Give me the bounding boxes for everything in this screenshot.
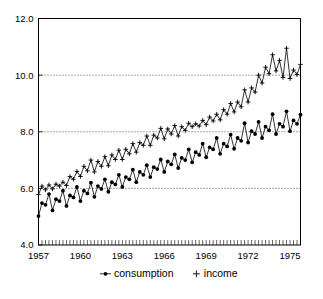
marker-consumption bbox=[197, 153, 201, 157]
x-tick-label-1975: 1975 bbox=[279, 250, 300, 261]
marker-consumption bbox=[68, 194, 72, 198]
marker-consumption bbox=[152, 165, 156, 169]
marker-consumption bbox=[204, 155, 208, 159]
marker-consumption bbox=[288, 129, 292, 133]
marker-consumption bbox=[211, 147, 215, 151]
marker-consumption bbox=[281, 125, 285, 129]
marker-consumption bbox=[239, 139, 243, 143]
marker-consumption bbox=[138, 170, 142, 174]
marker-consumption bbox=[92, 195, 96, 199]
marker-consumption bbox=[229, 133, 233, 137]
marker-consumption bbox=[243, 121, 247, 125]
marker-consumption bbox=[285, 109, 289, 113]
marker-consumption bbox=[155, 167, 159, 171]
x-tick-label-1972: 1972 bbox=[238, 250, 259, 261]
marker-consumption bbox=[82, 189, 86, 193]
legend-marker-dot-consumption bbox=[104, 272, 108, 276]
marker-consumption bbox=[96, 184, 100, 188]
marker-consumption bbox=[51, 209, 55, 213]
marker-consumption bbox=[40, 201, 44, 205]
marker-consumption bbox=[54, 197, 58, 201]
marker-consumption bbox=[110, 180, 114, 184]
marker-consumption bbox=[89, 181, 93, 185]
marker-consumption bbox=[124, 175, 128, 179]
marker-consumption bbox=[260, 136, 264, 140]
marker-consumption bbox=[271, 112, 275, 116]
legend-label-income: income bbox=[204, 267, 238, 279]
marker-consumption bbox=[169, 162, 173, 166]
marker-consumption bbox=[225, 145, 229, 149]
marker-consumption bbox=[173, 153, 177, 157]
marker-consumption bbox=[183, 158, 187, 162]
marker-consumption bbox=[145, 163, 149, 167]
marker-consumption bbox=[106, 190, 110, 194]
marker-consumption bbox=[37, 214, 41, 218]
marker-consumption bbox=[86, 192, 90, 196]
marker-consumption bbox=[232, 147, 236, 151]
marker-consumption bbox=[180, 156, 184, 160]
y-tick-label-12: 12.0 bbox=[15, 13, 34, 24]
chart-legend: consumptionincome bbox=[100, 267, 238, 279]
marker-consumption bbox=[218, 152, 222, 156]
marker-consumption bbox=[274, 132, 278, 136]
marker-consumption bbox=[58, 199, 62, 203]
chart-figure: 4.06.08.010.012.0 1957196019631966196919… bbox=[0, 0, 323, 299]
y-tick-label-8: 8.0 bbox=[20, 126, 33, 137]
marker-consumption bbox=[65, 204, 69, 208]
marker-consumption bbox=[141, 173, 145, 177]
x-tick-label-1960: 1960 bbox=[70, 250, 91, 261]
marker-consumption bbox=[222, 142, 226, 146]
marker-consumption bbox=[292, 119, 296, 123]
marker-consumption bbox=[257, 120, 261, 124]
x-tick-label-1969: 1969 bbox=[196, 250, 217, 261]
marker-consumption bbox=[61, 189, 65, 193]
marker-consumption bbox=[99, 187, 103, 191]
marker-consumption bbox=[79, 199, 83, 203]
marker-consumption bbox=[295, 122, 299, 126]
marker-consumption bbox=[127, 177, 131, 181]
y-tick-label-6: 6.0 bbox=[20, 183, 33, 194]
marker-consumption bbox=[246, 141, 250, 145]
marker-consumption bbox=[72, 196, 76, 200]
marker-consumption bbox=[159, 158, 163, 162]
marker-consumption bbox=[148, 175, 152, 179]
consumption-income-line-chart: 4.06.08.010.012.0 1957196019631966196919… bbox=[0, 0, 323, 299]
marker-consumption bbox=[299, 113, 303, 117]
marker-consumption bbox=[44, 203, 48, 207]
marker-consumption bbox=[103, 177, 107, 181]
marker-consumption bbox=[134, 180, 138, 184]
marker-consumption bbox=[75, 185, 79, 189]
marker-consumption bbox=[113, 183, 117, 187]
marker-consumption bbox=[194, 150, 198, 154]
marker-consumption bbox=[162, 170, 166, 174]
marker-consumption bbox=[264, 125, 268, 129]
marker-consumption bbox=[215, 136, 219, 140]
marker-consumption bbox=[190, 160, 194, 164]
x-tick-label-1963: 1963 bbox=[112, 250, 133, 261]
marker-consumption bbox=[208, 145, 212, 149]
marker-consumption bbox=[278, 122, 282, 126]
marker-consumption bbox=[117, 173, 121, 177]
marker-consumption bbox=[120, 185, 124, 189]
marker-consumption bbox=[166, 160, 170, 164]
y-tick-label-4: 4.0 bbox=[20, 239, 33, 250]
legend-label-consumption: consumption bbox=[114, 267, 174, 279]
y-tick-label-10: 10.0 bbox=[15, 70, 34, 81]
x-tick-label-1957: 1957 bbox=[28, 250, 49, 261]
marker-consumption bbox=[187, 147, 191, 151]
marker-consumption bbox=[267, 128, 271, 132]
marker-consumption bbox=[250, 129, 254, 133]
marker-consumption bbox=[131, 168, 135, 172]
x-tick-label-1966: 1966 bbox=[154, 250, 175, 261]
marker-consumption bbox=[236, 136, 240, 140]
marker-consumption bbox=[176, 166, 180, 170]
marker-consumption bbox=[253, 132, 257, 136]
marker-consumption bbox=[201, 142, 205, 146]
marker-consumption bbox=[47, 192, 51, 196]
